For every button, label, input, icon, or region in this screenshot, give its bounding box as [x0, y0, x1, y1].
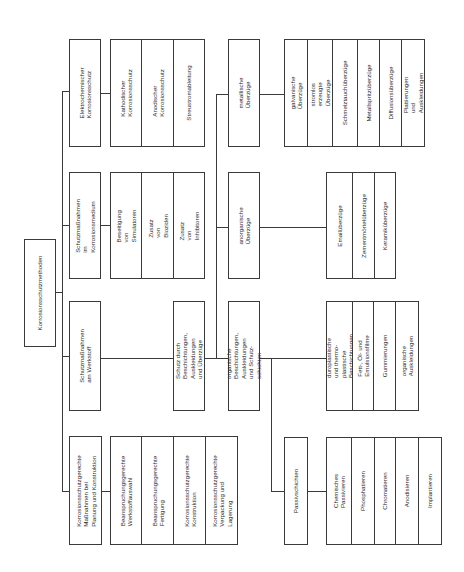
connector-elektro-leaves — [100, 93, 110, 94]
leaf-kathodisch: Kathodischer Korrosionsschutz — [110, 39, 142, 147]
leaf-phosphatieren: Phosphatieren — [351, 437, 375, 545]
node-label: Passivschichten — [292, 469, 299, 513]
leaf-chem-passivieren: Chemisches Passivieren — [326, 437, 352, 545]
leaf-metallspritz: Metallspritzüberzüge — [357, 39, 380, 147]
node-label: Schutzmaßnahmen am Werkstoff — [78, 329, 93, 383]
leaf-label: Phosphatieren — [359, 471, 366, 511]
connector-planung-leaves — [101, 491, 110, 492]
leaf-label: Implantieren — [426, 474, 433, 508]
connector-anorganisch-leaves — [259, 227, 326, 228]
leaf-label: Chemisches Passivieren — [332, 474, 347, 508]
node-planung: Korrosionsschutzgerechte Maßnahmen bei P… — [69, 436, 102, 545]
leaf-label: organische Auskleidungen — [400, 336, 415, 377]
leaf-duroplastisch: duroplastische und thermo- plastische Be… — [326, 301, 353, 411]
leaf-simulatoren: Beseitigung von Simulatoren — [110, 172, 142, 279]
connector-werkstoff-beschichtung — [100, 358, 173, 359]
leaf-label: Metallspritzüberzüge — [365, 64, 372, 121]
connector-metallisch — [216, 94, 228, 95]
leaf-schmelztauch: Schmelztauchüberzüge — [332, 39, 358, 147]
leaf-label: Zusatz von Bioziden — [146, 214, 168, 238]
node-label: Elektrochemischer Korrosionsschutz — [78, 68, 93, 119]
node-label: Schutzmaßnahmen im Korrosionsmedium — [74, 199, 96, 253]
leaf-label: duroplastische und thermo- plastische Be… — [325, 334, 355, 378]
leaf-fett-oel: Fett-, Öl- und Emulsionsfilme — [352, 301, 374, 411]
leaf-label: stromlos erzeugte Überzüge — [309, 80, 331, 107]
leaf-label: Gummierungen — [381, 335, 388, 378]
leaf-label: Korrosionsschutzgerechte Konstruktion — [182, 455, 197, 527]
node-anorganisch: anorganische Überzüge — [228, 172, 260, 279]
connector-elektro — [62, 91, 69, 92]
leaf-email: Emailüberzüge — [326, 172, 353, 279]
leaf-stromlos: stromlos erzeugte Überzüge — [307, 39, 333, 147]
leaf-biozide: Zusatz von Bioziden — [141, 172, 174, 279]
leaf-label: Schmelztauchüberzüge — [341, 61, 348, 126]
leaf-streustrom: Streustromableitung — [173, 39, 205, 147]
trunk-main — [62, 91, 63, 492]
leaf-label: Fett-, Öl- und Emulsionsfilme — [356, 335, 371, 377]
leaf-keramik: Keramiküberzüge — [374, 172, 396, 279]
node-organisch: organische Beschichtungen, Auskleidungen… — [228, 301, 260, 411]
node-beschichtungen: Schutz durch Beschichtungen, Auskleidung… — [173, 301, 205, 411]
leaf-diffusion: Diffusionsüberzüge — [379, 39, 402, 147]
node-elektrochemisch: Elektrochemischer Korrosionsschutz — [69, 39, 101, 147]
connector-metallisch-leaves — [259, 94, 284, 95]
connector-passiv-leaves — [307, 491, 326, 492]
node-label: anorganische Überzüge — [237, 207, 252, 244]
leaf-anodisieren: Anodisieren — [395, 437, 419, 545]
leaf-label: Plattierungen und Auskleidungen — [402, 73, 424, 114]
leaf-plattierungen: Plattierungen und Auskleidungen — [401, 39, 425, 147]
leaf-galvanisch: galvanische Überzüge — [284, 39, 308, 147]
connector-anorganisch — [216, 227, 228, 228]
connector-organisch-leaves — [259, 358, 326, 359]
leaf-verpackung: Korrosionsschutzgerechte Verpackung und … — [205, 436, 238, 545]
connector-passiv — [271, 491, 284, 492]
leaf-label: Beseitigung von Simulatoren — [115, 209, 137, 242]
leaf-werkstoffauswahl: Beanspruchungsgerechte Werkstoffauswahl — [110, 436, 142, 545]
leaf-label: Diffusionsüberzüge — [387, 67, 394, 120]
leaf-implantieren: Implantieren — [418, 437, 442, 545]
trunk-passiv — [271, 358, 272, 492]
connector-medium-leaves — [100, 225, 110, 226]
leaf-label: Keramiküberzüge — [381, 201, 388, 250]
leaf-label: Emailüberzüge — [336, 205, 343, 246]
leaf-organische-auskleidungen: organische Auskleidungen — [395, 301, 419, 411]
leaf-label: Beanspruchungsgerechte Werkstoffauswahl — [119, 455, 134, 526]
leaf-anodisch: Anodischer Korrosionsschutz — [141, 39, 174, 147]
leaf-label: Anodisieren — [403, 475, 410, 508]
node-label: organische Beschichtungen, Auskleidungen… — [225, 333, 262, 379]
leaf-label: Streustromableitung — [185, 65, 192, 120]
connector-planung — [62, 491, 69, 492]
node-label: metallische Überzüge — [237, 78, 252, 109]
leaf-label: Korrosionsschutzgerechte Verpackung und … — [210, 455, 232, 527]
leaf-chromatieren: Chromatieren — [374, 437, 396, 545]
root-node: Korrosionsschutzmethoden — [24, 239, 56, 347]
node-werkstoff: Schutzmaßnahmen am Werkstoff — [69, 301, 101, 411]
node-label: Korrosionsschutzgerechte Maßnahmen bei P… — [74, 455, 96, 527]
leaf-fertigung: Beanspruchungsgerechte Fertigung — [141, 436, 174, 545]
connector-werkstoff — [62, 356, 69, 357]
leaf-konstruktion: Korrosionsschutzgerechte Konstruktion — [173, 436, 206, 545]
leaf-label: Beanspruchungsgerechte Fertigung — [150, 455, 165, 526]
node-korrosionsmedium: Schutzmaßnahmen im Korrosionsmedium — [69, 172, 101, 279]
leaf-zementmoertel: Zementmörtelüberzüge — [352, 172, 375, 279]
leaf-inhibitoren: Zusatz von Inhibitoren — [173, 172, 205, 279]
node-metallisch: metallische Überzüge — [228, 39, 260, 147]
root-title: Korrosionsschutzmethoden — [36, 256, 43, 331]
node-passivschichten: Passivschichten — [284, 437, 308, 545]
leaf-label: Anodischer Korrosionsschutz — [150, 69, 165, 116]
leaf-label: Kathodischer Korrosionsschutz — [119, 69, 134, 116]
leaf-label: Zementmörtelüberzüge — [360, 194, 367, 258]
leaf-label: Chromatieren — [381, 472, 388, 510]
leaf-label: galvanische Überzüge — [289, 77, 304, 110]
leaf-label: Zusatz von Inhibitoren — [178, 211, 200, 240]
node-label: Schutz durch Beschichtungen, Auskleidung… — [174, 333, 204, 379]
leaf-gummierungen: Gummierungen — [373, 301, 396, 411]
connector-medium — [62, 225, 69, 226]
